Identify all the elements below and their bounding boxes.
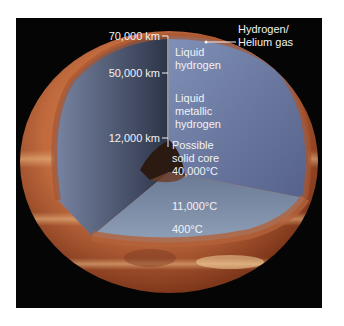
label-metallic-hydrogen-line2: metallic: [175, 105, 212, 117]
label-hydrogen-helium-line2: Helium gas: [238, 36, 293, 48]
depth-label-70000: 70,000 km: [98, 30, 160, 42]
label-metallic-hydrogen-line1: Liquid: [175, 92, 204, 104]
label-liquid-hydrogen-line2: hydrogen: [175, 59, 221, 71]
depth-label-12000: 12,000 km: [98, 132, 160, 144]
label-core-line1: Possible: [172, 139, 214, 151]
label-core-temperature: 40,000°C: [172, 165, 218, 177]
label-core-line2: solid core: [172, 152, 219, 164]
label-temp-400: 400°C: [172, 223, 203, 235]
depth-label-50000: 50,000 km: [98, 67, 160, 79]
label-metallic-hydrogen-line3: hydrogen: [175, 118, 221, 130]
label-hydrogen-helium-line1: Hydrogen/: [238, 23, 289, 35]
label-liquid-hydrogen-line1: Liquid: [175, 46, 204, 58]
label-temp-11000: 11,000°C: [172, 200, 217, 212]
